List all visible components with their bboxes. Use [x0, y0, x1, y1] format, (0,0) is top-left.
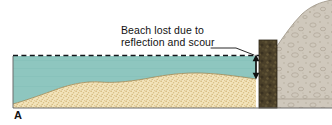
- callout-beach-loss: Beach lost due to reflection and scour: [121, 25, 215, 48]
- figure-panel: Beach lost due to reflection and scour A: [0, 0, 332, 125]
- panel-letter: A: [14, 109, 22, 121]
- beach-seawall-cross-section: [0, 0, 332, 125]
- seawall-structure: [259, 40, 277, 108]
- callout-line-1: Beach lost due to: [121, 25, 215, 37]
- cobble-bluff: [277, 0, 332, 108]
- leader-line-icon: [211, 48, 254, 55]
- callout-line-2: reflection and scour: [121, 37, 215, 49]
